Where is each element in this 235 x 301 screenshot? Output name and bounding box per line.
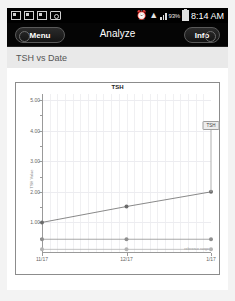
chart-plot-area[interactable]: 5.004.003.002.001.00 11/1712/171/17 TSHr… — [42, 94, 211, 253]
x-axis-tick-mark — [42, 253, 43, 256]
status-bar: ⏰ ▲ 93% 8:14 AM — [7, 8, 228, 23]
x-axis-tick-label: 1/17 — [206, 256, 216, 262]
series-data-point[interactable] — [209, 247, 213, 251]
phone-screen: ⏰ ▲ 93% 8:14 AM Menu Analyze Info TSH vs… — [0, 0, 235, 301]
reference-range-note: reference range — [184, 247, 209, 251]
x-axis-tick-mark — [211, 253, 212, 256]
screenshot-icon — [37, 11, 47, 20]
alarm-icon: ⏰ — [136, 11, 147, 20]
chart-callout-label[interactable]: TSH — [203, 121, 220, 130]
chart-frame[interactable]: TSH TSH Value 5.004.003.002.001.00 11/17… — [15, 82, 220, 275]
chart-y-axis-label: TSH Value — [29, 169, 34, 188]
series-data-point[interactable] — [40, 237, 44, 241]
series-data-point[interactable] — [209, 237, 213, 241]
status-bar-clock: 8:14 AM — [191, 11, 224, 21]
x-axis-tick-label: 11/17 — [36, 256, 48, 262]
battery-percent: 93% — [169, 13, 180, 19]
camera-icon — [50, 11, 61, 20]
signal-icon — [160, 12, 167, 20]
nav-bar: Menu Analyze Info — [7, 23, 228, 47]
wifi-icon: ▲ — [149, 11, 158, 20]
battery-icon — [182, 10, 189, 21]
info-button-label: Info — [195, 31, 210, 40]
status-bar-right: ⏰ ▲ 93% 8:14 AM — [136, 10, 224, 21]
status-bar-left — [11, 11, 61, 20]
series-data-point[interactable] — [40, 247, 44, 251]
screenshot-icon — [11, 11, 21, 20]
chart-series — [42, 94, 211, 253]
callout-leader-line — [211, 130, 212, 192]
series-data-point[interactable] — [125, 237, 129, 241]
info-button[interactable]: Info — [184, 27, 220, 43]
series-data-point[interactable] — [125, 247, 129, 251]
series-data-point[interactable] — [40, 220, 44, 224]
series-data-point[interactable] — [125, 205, 129, 209]
x-axis-tick-label: 12/17 — [120, 256, 133, 262]
x-axis-tick-mark — [127, 253, 128, 256]
chart-card: TSH TSH Value 5.004.003.002.001.00 11/17… — [7, 68, 228, 290]
section-header-label: TSH vs Date — [7, 53, 67, 63]
chart-title: TSH — [16, 84, 219, 90]
section-header: TSH vs Date — [7, 47, 228, 68]
screenshot-icon — [24, 11, 34, 20]
